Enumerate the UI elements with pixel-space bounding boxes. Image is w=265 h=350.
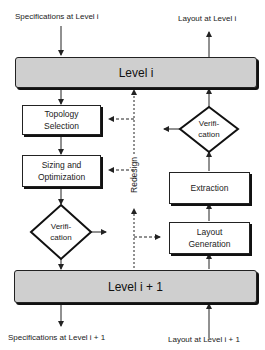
sizing-line-1: Sizing and xyxy=(38,159,85,171)
spec-level-i-label: Specifications at Level i xyxy=(15,12,99,21)
level-i-plus-1-bar: Level i + 1 xyxy=(14,270,257,303)
extraction-label: Extraction xyxy=(191,182,229,194)
verification-left-text: Verifi- cation xyxy=(41,221,81,243)
verification-left-line-1: Verifi- xyxy=(41,221,81,232)
sizing-line-2: Optimization xyxy=(38,171,85,183)
topology-line-1: Topology xyxy=(44,108,79,120)
verification-right-line-2: cation xyxy=(189,129,229,140)
topology-selection-box: Topology Selection xyxy=(22,105,101,135)
verification-left-line-2: cation xyxy=(41,232,81,243)
level-i-bar: Level i xyxy=(15,57,257,88)
spec-level-i1-label: Specifications at Level i + 1 xyxy=(8,333,105,342)
topology-line-2: Selection xyxy=(44,120,79,132)
layout-gen-line-2: Generation xyxy=(188,238,230,250)
verification-right-text: Verifi- cation xyxy=(189,118,229,140)
sizing-optimization-box: Sizing and Optimization xyxy=(22,155,101,187)
level-i-plus-1-label: Level i + 1 xyxy=(108,280,163,294)
layout-generation-box: Layout Generation xyxy=(169,222,250,254)
redesign-label: Redesign xyxy=(129,155,139,195)
extraction-box: Extraction xyxy=(169,172,250,204)
layout-gen-line-1: Layout xyxy=(188,226,230,238)
layout-level-i-label: Layout at Level i xyxy=(178,14,236,23)
verification-right-line-1: Verifi- xyxy=(189,118,229,129)
layout-level-i1-label: Layout at Level i + 1 xyxy=(168,335,240,344)
level-i-label: Level i xyxy=(119,66,154,80)
